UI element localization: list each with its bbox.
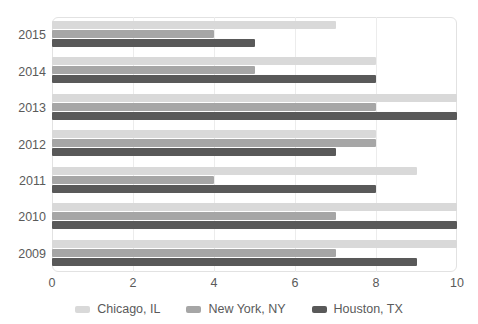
gridline: [457, 17, 458, 272]
legend-swatch-icon: [186, 306, 201, 313]
bar: [52, 66, 255, 74]
bar: [52, 258, 417, 266]
legend-label: New York, NY: [208, 302, 285, 316]
x-axis-tick-label: 8: [361, 276, 391, 290]
x-axis-tick-label: 0: [37, 276, 67, 290]
bar: [52, 103, 376, 111]
bar: [52, 167, 417, 175]
bar: [52, 75, 376, 83]
chart-legend: Chicago, ILNew York, NYHouston, TX: [0, 302, 478, 316]
bar: [52, 176, 214, 184]
bar-group: [52, 126, 457, 162]
bar: [52, 203, 457, 211]
bar: [52, 212, 336, 220]
y-axis-tick-label: 2014: [0, 65, 46, 79]
bar: [52, 221, 457, 229]
bar-group: [52, 53, 457, 89]
x-axis-tick-label: 6: [280, 276, 310, 290]
legend-label: Houston, TX: [334, 302, 403, 316]
legend-label: Chicago, IL: [97, 302, 160, 316]
legend-swatch-icon: [75, 306, 90, 313]
bar-group: [52, 199, 457, 235]
legend-swatch-icon: [312, 306, 327, 313]
bar: [52, 139, 376, 147]
bar: [52, 57, 376, 65]
bar: [52, 39, 255, 47]
x-axis-tick-label: 2: [118, 276, 148, 290]
bar: [52, 21, 336, 29]
legend-item[interactable]: Chicago, IL: [75, 302, 160, 316]
bar: [52, 249, 336, 257]
y-axis-tick-label: 2009: [0, 247, 46, 261]
bar: [52, 112, 457, 120]
bar: [52, 240, 457, 248]
y-axis-tick-label: 2011: [0, 174, 46, 188]
chart-title: [0, 0, 478, 1]
y-axis-tick-label: 2010: [0, 210, 46, 224]
bar: [52, 185, 376, 193]
y-axis-tick-label: 2013: [0, 101, 46, 115]
bar-group: [52, 90, 457, 126]
bar-group: [52, 236, 457, 272]
bar-chart: 2015201420132012201120102009 0246810 Chi…: [0, 0, 478, 324]
x-axis-tick-label: 10: [442, 276, 472, 290]
bar: [52, 30, 214, 38]
x-axis-tick-label: 4: [199, 276, 229, 290]
legend-item[interactable]: New York, NY: [186, 302, 285, 316]
bar: [52, 130, 376, 138]
y-axis-tick-label: 2012: [0, 138, 46, 152]
bar: [52, 148, 336, 156]
bar-group: [52, 17, 457, 53]
y-axis-tick-label: 2015: [0, 28, 46, 42]
legend-item[interactable]: Houston, TX: [312, 302, 403, 316]
bar-group: [52, 163, 457, 199]
bar: [52, 94, 457, 102]
